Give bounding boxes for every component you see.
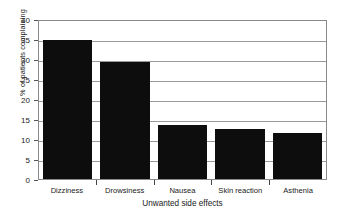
x-axis-title: Unwanted side effects — [38, 199, 327, 208]
y-axis-tick-label: 25 — [6, 76, 30, 85]
x-axis-tick-label: Dizziness — [38, 186, 96, 195]
bar — [215, 129, 264, 179]
bar — [273, 133, 322, 179]
y-axis-tick — [34, 20, 38, 21]
bar — [43, 40, 92, 179]
y-axis-tick-label: 0 — [6, 176, 30, 185]
y-axis-tick-label: 30 — [6, 56, 30, 65]
y-axis-tick-label: 35 — [6, 36, 30, 45]
y-axis-tick — [34, 180, 38, 181]
y-axis-tick — [34, 120, 38, 121]
y-axis-tick — [34, 40, 38, 41]
bar-slot — [154, 21, 211, 179]
y-axis-tick-label: 20 — [6, 96, 30, 105]
x-axis-tick — [154, 180, 155, 185]
y-axis-tick — [34, 100, 38, 101]
bar-slot — [96, 21, 153, 179]
y-axis-tick-label: 10 — [6, 136, 30, 145]
bar-slot — [269, 21, 326, 179]
x-axis-tick-label: Nausea — [154, 186, 212, 195]
bar-chart: % of patients complaining 05101520253035… — [0, 0, 342, 221]
plot-area — [38, 20, 327, 180]
y-axis-tick-label: 40 — [6, 16, 30, 25]
x-axis-tick — [96, 180, 97, 185]
y-axis-tick — [34, 140, 38, 141]
bar-slot — [211, 21, 268, 179]
bar — [100, 62, 149, 179]
bar — [158, 125, 207, 179]
bar-slot — [39, 21, 96, 179]
y-axis-tick-label: 15 — [6, 116, 30, 125]
x-axis-tick-labels: DizzinessDrowsinessNauseaSkin reactionAs… — [38, 186, 327, 195]
x-axis-tick — [211, 180, 212, 185]
y-axis-tick — [34, 160, 38, 161]
x-axis-tick-label: Drowsiness — [96, 186, 154, 195]
x-axis-tick — [269, 180, 270, 185]
y-axis-tick-label: 5 — [6, 156, 30, 165]
y-axis-tick — [34, 80, 38, 81]
x-axis-tick-label: Skin reaction — [211, 186, 269, 195]
bar-series — [39, 21, 326, 179]
x-axis-tick-label: Asthenia — [269, 186, 327, 195]
y-axis-tick — [34, 60, 38, 61]
